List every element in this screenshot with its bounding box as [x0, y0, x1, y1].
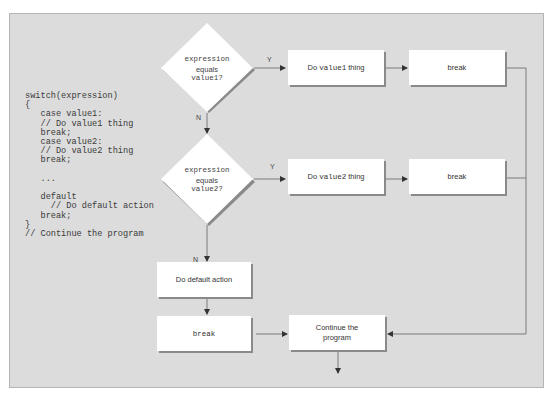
action-value1-code: value1 [319, 63, 346, 73]
break-1-box: break [409, 50, 505, 85]
action-value2-box: Do value2 thing [288, 159, 384, 194]
yes-label-2: Y [270, 163, 275, 170]
break-2-box: break [409, 159, 505, 194]
action-value1-suffix: thing [346, 63, 364, 73]
action-value1-prefix: Do [307, 63, 319, 73]
decision-2-text: expression equals value2? [167, 166, 247, 195]
action-value2-code: value2 [319, 172, 346, 182]
continue-program-box: Continue the program [289, 315, 385, 350]
action-value2-suffix: thing [346, 172, 364, 182]
default-action-box: Do default action [157, 262, 251, 297]
yes-label-1: Y [267, 56, 272, 63]
decision-1-text: expression equals value1? [167, 55, 247, 84]
action-value1-box: Do value1 thing [288, 50, 384, 85]
no-label-1: N [196, 114, 201, 121]
break-default-box: break [157, 316, 251, 351]
action-value2-prefix: Do [307, 172, 319, 182]
